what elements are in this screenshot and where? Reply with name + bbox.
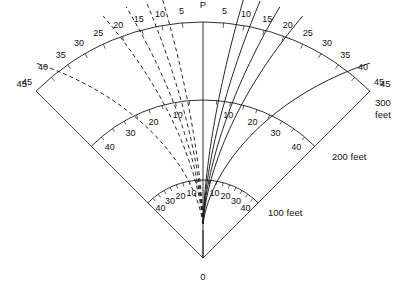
arc-tick <box>230 102 231 106</box>
polar-sector-diagram: P551010151520202525303035354040454510102… <box>0 0 404 301</box>
tick-label: 5 <box>222 6 227 16</box>
arc-tick <box>101 137 104 140</box>
arc-tick <box>124 121 126 124</box>
arc-tick <box>176 185 177 189</box>
tick-label: 25 <box>93 28 103 38</box>
arc-tick <box>351 77 354 81</box>
tick-label: 30 <box>270 128 280 138</box>
tick-label: 40 <box>291 142 301 152</box>
tick-label: 10 <box>241 9 251 19</box>
arc-tick <box>256 110 257 114</box>
tick-label: 10 <box>223 110 233 120</box>
arc-tick <box>142 30 143 35</box>
arc-tick <box>228 185 229 189</box>
tick-label: P <box>200 0 206 10</box>
arc-tick <box>245 194 247 197</box>
tick-label: 20 <box>113 20 123 30</box>
arc-tick <box>91 146 94 149</box>
arc-tick <box>222 183 223 187</box>
arc-tick <box>68 65 71 69</box>
vertex-label-right: 45 <box>380 78 391 89</box>
arc-tick <box>85 54 88 58</box>
arc-tick <box>302 137 305 140</box>
tick-label: 20 <box>283 20 293 30</box>
tick-label: 10 <box>209 188 219 198</box>
tick-label: 35 <box>340 50 350 60</box>
arc-tick <box>336 65 339 69</box>
tick-label: 40 <box>156 203 166 213</box>
tick-label: 10 <box>187 188 197 198</box>
tick-label: 30 <box>125 128 135 138</box>
arc-caption-outer-unit: feet <box>375 109 391 120</box>
arc-tick <box>280 121 282 124</box>
arc-tick <box>149 110 150 114</box>
tick-label: 20 <box>175 191 185 201</box>
tick-label: 40 <box>105 142 115 152</box>
tick-label: 15 <box>134 14 144 24</box>
tick-label: 30 <box>322 38 332 48</box>
arc-caption-outer: 300 <box>375 97 391 108</box>
arc-tick <box>103 44 105 49</box>
arc-tick <box>158 194 160 197</box>
arc-tick <box>51 77 54 81</box>
arc-caption-middle: 200 feet <box>332 151 367 162</box>
tick-label: 5 <box>179 6 184 16</box>
arc-tick <box>153 198 156 201</box>
arc-tick <box>176 102 177 106</box>
arc-caption-inner: 100 feet <box>268 207 303 218</box>
arc-tick <box>162 26 163 31</box>
tick-label: 20 <box>148 117 158 127</box>
arc-tick <box>319 54 322 58</box>
arc-tick <box>162 105 163 109</box>
tick-label: 30 <box>165 196 175 206</box>
vertex-label-left: 45 <box>16 78 27 89</box>
apex-label: 0 <box>200 271 205 282</box>
arc-tick <box>164 190 166 193</box>
tick-label: 20 <box>221 191 231 201</box>
arc-tick <box>366 91 370 95</box>
tick-label: 35 <box>56 50 66 60</box>
arc-tick <box>170 187 172 191</box>
tick-label: 25 <box>303 28 313 38</box>
arc-tick <box>251 198 254 201</box>
tick-label: 10 <box>173 110 183 120</box>
arc-tick <box>148 203 151 206</box>
arc-tick <box>243 26 244 31</box>
arc-tick <box>243 105 244 109</box>
tick-label: 30 <box>74 38 84 48</box>
arc-tick <box>234 187 236 191</box>
arc-tick <box>255 203 258 206</box>
arc-tick <box>301 44 303 49</box>
arc-tick <box>112 129 114 132</box>
tick-label: 40 <box>240 203 250 213</box>
figure-canvas: P551010151520202525303035354040454510102… <box>0 0 404 301</box>
arc-tick <box>291 129 293 132</box>
tick-label: 20 <box>248 117 258 127</box>
tick-label: 10 <box>155 9 165 19</box>
arc-tick <box>312 146 315 149</box>
arc-tick <box>183 183 184 187</box>
arc-tick <box>240 190 242 193</box>
arc-tick <box>36 91 40 95</box>
